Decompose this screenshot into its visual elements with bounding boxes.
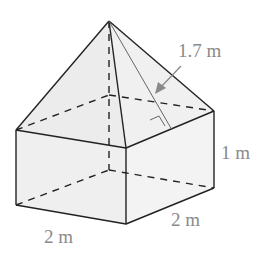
slant-height-label: 1.7 m [178, 40, 222, 61]
base-side-label: 2 m [171, 209, 200, 230]
composite-solid-diagram: 1.7 m 1 m 2 m 2 m [0, 0, 274, 260]
prism-height-label: 1 m [221, 142, 250, 163]
base-front-label: 2 m [44, 226, 73, 247]
